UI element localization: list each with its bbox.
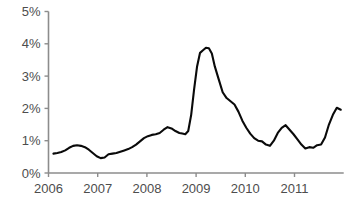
data-series-group (53, 48, 340, 158)
x-axis-tick-label: 2008 (132, 181, 161, 196)
y-axis-tick-label: 0% (22, 166, 41, 181)
series-line-rate (53, 48, 340, 158)
x-axis-tick-label: 2006 (34, 181, 63, 196)
x-axis-tick-label: 2011 (281, 181, 309, 196)
y-axis (45, 12, 49, 174)
line-chart: 5%4%3%2%1%0% 200620072008200920102011 (0, 0, 349, 209)
y-axis-tick-label: 5% (22, 4, 41, 19)
y-axis-tick-label: 2% (22, 101, 41, 116)
chart-canvas: 5%4%3%2%1%0% 200620072008200920102011 (0, 0, 349, 209)
y-axis-tick-labels: 5%4%3%2%1%0% (22, 4, 41, 181)
x-axis-tick-label: 2009 (182, 181, 211, 196)
x-axis (49, 173, 344, 177)
y-axis-tick-label: 1% (22, 133, 41, 148)
y-axis-tick-label: 4% (22, 36, 41, 51)
x-axis-tick-label: 2007 (83, 181, 112, 196)
y-axis-tick-label: 3% (22, 69, 41, 84)
x-axis-tick-labels: 200620072008200920102011 (34, 181, 308, 196)
x-axis-tick-label: 2010 (231, 181, 260, 196)
